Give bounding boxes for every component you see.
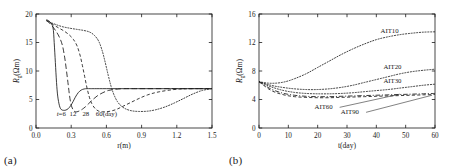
data-curve — [259, 82, 435, 97]
y-tick-label: 10 — [25, 68, 33, 76]
panel-b-tag: (b) — [229, 154, 242, 166]
svg-text:Rg(Ωm): Rg(Ωm) — [235, 59, 245, 84]
y-tick-label: 0 — [29, 125, 33, 133]
x-tick-label: 50 — [402, 132, 410, 140]
x-tick-label: 40 — [373, 132, 381, 140]
figure-container: 0.00.30.60.91.21.505101520r(m)Rg(Ωm)t=61… — [0, 0, 450, 168]
data-curve — [47, 20, 212, 112]
x-tick-label: 30 — [343, 132, 351, 140]
panel-a-tag: (a) — [4, 154, 17, 166]
y-axis-label: Rg(Ωm) — [235, 59, 245, 84]
data-curve — [259, 82, 435, 94]
data-curve — [259, 82, 435, 98]
panel-b-plot: 01020304050600481216t(day)Rg(Ωm)AIT10AIT… — [225, 0, 450, 168]
x-axis-label: t(day) — [338, 141, 357, 150]
data-curve — [259, 69, 435, 89]
y-tick-label: 5 — [29, 96, 33, 104]
y-tick-label: 12 — [248, 39, 256, 47]
x-tick-label: 10 — [285, 132, 293, 140]
curve-annotation: 28 — [82, 110, 89, 117]
curve-annotation: 12 — [70, 110, 77, 117]
data-curve — [259, 32, 435, 83]
curve-annotation: AIT30 — [383, 77, 402, 84]
y-tick-label: 4 — [252, 96, 256, 104]
y-axis-label: Rg(Ωm) — [12, 59, 22, 84]
x-tick-label: 0.0 — [32, 132, 41, 140]
y-tick-label: 16 — [248, 11, 256, 19]
curve-annotation: AIT20 — [383, 63, 402, 70]
curve-annotation: AIT60 — [314, 103, 333, 110]
x-tick-label: 1.2 — [172, 132, 181, 140]
curve-annotation: AIT10 — [380, 27, 399, 34]
x-tick-label: 0.9 — [137, 132, 146, 140]
x-tick-label: 0.6 — [102, 132, 111, 140]
data-curve — [47, 21, 212, 112]
panel-a-plot: 0.00.30.60.91.21.505101520r(m)Rg(Ωm)t=61… — [0, 0, 225, 168]
panel-a: 0.00.30.60.91.21.505101520r(m)Rg(Ωm)t=61… — [0, 0, 225, 168]
y-tick-label: 20 — [25, 11, 33, 19]
data-curve — [47, 21, 212, 112]
panel-b: 01020304050600481216t(day)Rg(Ωm)AIT10AIT… — [225, 0, 450, 168]
curve-annotation: 60(day) — [96, 110, 117, 118]
annotation-leader-line — [366, 95, 432, 112]
y-tick-label: 15 — [25, 39, 33, 47]
svg-text:Rg(Ωm): Rg(Ωm) — [12, 59, 22, 84]
x-tick-label: 1.5 — [208, 132, 217, 140]
y-tick-label: 8 — [252, 68, 256, 76]
x-tick-label: 0.3 — [67, 132, 76, 140]
x-tick-label: 0 — [257, 132, 261, 140]
curve-annotation: t=6 — [57, 110, 67, 117]
y-tick-label: 0 — [252, 125, 256, 133]
x-tick-label: 60 — [431, 132, 439, 140]
curve-annotation: AIT90 — [341, 108, 360, 115]
x-axis-label: r(m) — [117, 141, 131, 150]
x-tick-label: 20 — [314, 132, 322, 140]
